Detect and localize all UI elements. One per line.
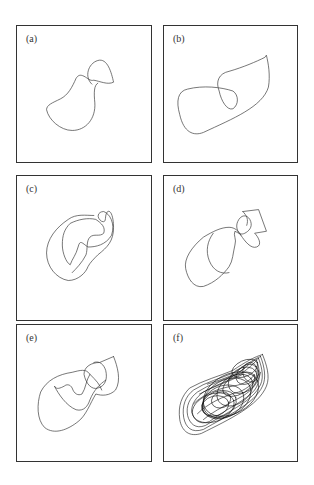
phase-portrait-a	[17, 26, 151, 162]
phase-portrait-c	[17, 176, 151, 320]
phase-portrait-f	[164, 325, 297, 461]
panel-a: (a)	[16, 25, 152, 163]
phase-portrait-d	[164, 176, 297, 320]
panel-f: (f)	[163, 324, 298, 462]
panel-b: (b)	[163, 25, 298, 163]
panel-e: (e)	[16, 324, 152, 462]
phase-portrait-e	[17, 325, 151, 461]
panel-d: (d)	[163, 175, 298, 321]
phase-portrait-b	[164, 26, 297, 162]
panel-c: (c)	[16, 175, 152, 321]
